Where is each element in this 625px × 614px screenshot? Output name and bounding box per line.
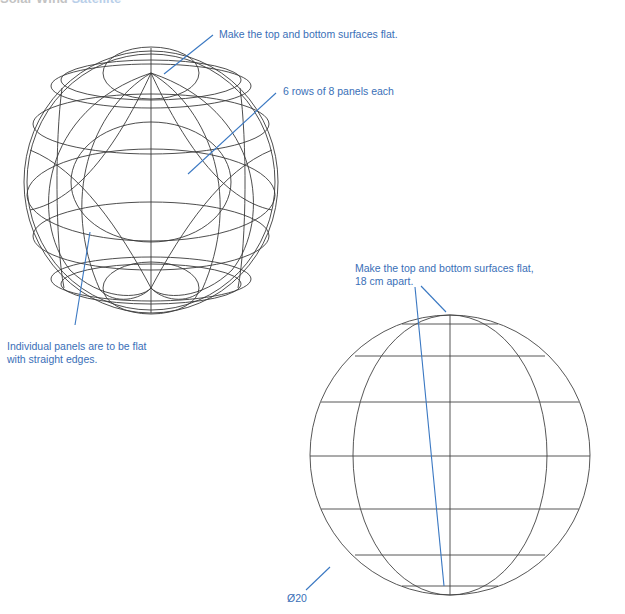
annotation-flat-apart-line1: Make the top and bottom surfaces flat, [355, 262, 534, 274]
leader-lines [75, 35, 446, 590]
annotation-rows-panels: 6 rows of 8 panels each [283, 85, 394, 97]
left-sphere-wireframe [24, 47, 278, 314]
annotation-panels-flat-line1: Individual panels are to be flat [7, 340, 147, 352]
annotation-panels-flat-line2: with straight edges. [7, 353, 97, 365]
annotation-flat-apart-line2: 18 cm apart. [355, 275, 413, 287]
annotation-flat-surfaces: Make the top and bottom surfaces flat. [219, 28, 398, 40]
annotation-diameter: Ø20 [287, 592, 307, 604]
right-sphere-wireframe [310, 315, 590, 595]
